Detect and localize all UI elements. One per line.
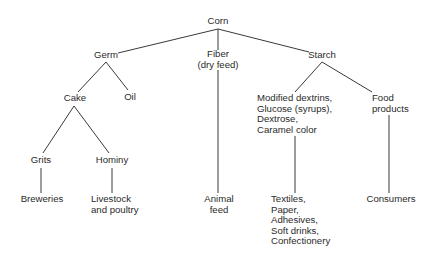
node-food-products: Food products: [372, 93, 409, 114]
node-germ: Germ: [94, 50, 118, 61]
edge-starch-products: [295, 62, 322, 92]
node-label: feed: [204, 205, 233, 216]
node-label: Cake: [64, 93, 86, 104]
node-label: Hominy: [96, 155, 129, 166]
node-label: Germ: [94, 50, 118, 61]
node-label: Animal: [204, 194, 233, 205]
node-grits: Grits: [31, 155, 51, 166]
node-hominy: Hominy: [96, 155, 129, 166]
edge-cake-hominy: [74, 106, 109, 153]
edge-germ-cake: [78, 62, 106, 92]
edge-germ-oil: [106, 62, 128, 90]
node-label: Livestock: [91, 194, 138, 205]
node-starch-products: Modified dextrins, Glucose (syrups), Dex…: [257, 93, 332, 135]
node-breweries: Breweries: [21, 194, 64, 205]
node-starch: Starch: [308, 50, 336, 61]
node-label: Starch: [308, 50, 336, 61]
node-consumers: Consumers: [366, 194, 415, 205]
edge-cake-grits: [43, 106, 74, 153]
node-label: products: [372, 104, 409, 115]
node-label: and poultry: [91, 205, 138, 216]
node-label: Consumers: [366, 194, 415, 205]
node-label: (dry feed): [197, 60, 238, 71]
node-label: Confectionery: [271, 236, 330, 247]
node-label: Breweries: [21, 194, 64, 205]
node-label: Fiber: [197, 49, 238, 60]
node-label: Textiles,: [271, 194, 330, 205]
node-industrial-uses: Textiles, Paper, Adhesives, Soft drinks,…: [271, 194, 330, 247]
node-label: Caramel color: [257, 125, 332, 136]
node-label: Modified dextrins,: [257, 93, 332, 104]
node-label: Corn: [208, 16, 229, 27]
node-fiber: Fiber (dry feed): [197, 49, 238, 70]
node-animal-feed: Animal feed: [204, 194, 233, 215]
node-oil: Oil: [124, 92, 136, 103]
node-cake: Cake: [64, 93, 86, 104]
node-corn: Corn: [208, 16, 229, 27]
edge-starch-food: [322, 62, 372, 92]
diagram-edges: [0, 0, 437, 259]
node-label: Grits: [31, 155, 51, 166]
node-label: Oil: [124, 92, 136, 103]
node-livestock: Livestock and poultry: [91, 194, 138, 215]
node-label: Food: [372, 93, 409, 104]
